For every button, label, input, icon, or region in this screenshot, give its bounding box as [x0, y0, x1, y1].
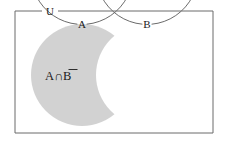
venn-diagram-figure: U A B A∩B — [0, 0, 230, 146]
venn-diagram-canvas: U A B A∩B — [0, 0, 230, 146]
region-expression-text: A∩B — [45, 69, 71, 83]
universe-label: U — [46, 5, 54, 17]
set-a-label: A — [78, 18, 86, 30]
shaded-region-a-minus-b — [0, 0, 230, 146]
set-b-label: B — [143, 18, 150, 30]
